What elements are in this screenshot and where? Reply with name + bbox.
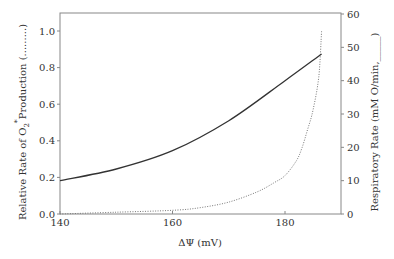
left-y-tick-label: 0.0	[39, 209, 55, 220]
left-y-tick-label: 1.0	[39, 26, 55, 37]
left-y-tick-label: 0.6	[39, 99, 55, 110]
left-y-axis-label: Relative Rate of O2*Production (........…	[13, 24, 31, 220]
chart: 140160180 0.00.20.40.60.81.0 01020304050…	[0, 0, 394, 259]
left-y-axis-ticks: 0.00.20.40.60.81.0	[39, 26, 60, 220]
respiratory-rate-solid-line	[60, 54, 322, 181]
right-y-tick-label: 40	[347, 75, 360, 86]
right-y-tick-label: 0	[347, 209, 353, 220]
right-y-tick-label: 60	[347, 9, 360, 20]
left-y-tick-label: 0.8	[39, 62, 55, 73]
x-axis-label: ΔΨ (mV)	[178, 237, 222, 248]
right-y-tick-label: 30	[347, 109, 360, 120]
o2-production-dotted-line	[60, 31, 322, 214]
x-tick-label: 180	[275, 217, 294, 228]
plot-frame	[60, 13, 341, 214]
right-y-tick-label: 10	[347, 175, 360, 186]
left-y-tick-label: 0.4	[39, 135, 55, 146]
right-y-axis-label: Respiratory Rate (mM O/min,_____)	[369, 32, 381, 211]
right-y-axis-ticks: 0102030405060	[341, 9, 360, 220]
left-y-tick-label: 0.2	[39, 172, 55, 183]
right-y-tick-label: 50	[347, 42, 360, 53]
right-y-tick-label: 20	[347, 142, 360, 153]
x-tick-label: 160	[163, 217, 182, 228]
